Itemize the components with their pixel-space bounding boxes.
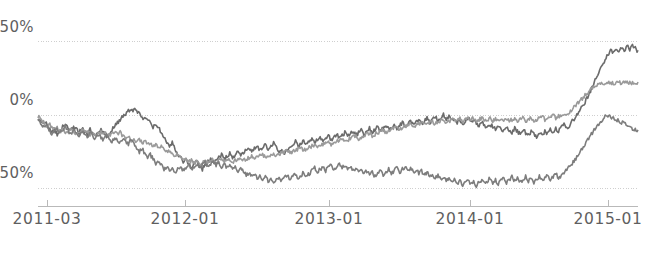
y-tick-label: 0% xyxy=(9,91,34,109)
x-tick-label: 2012-01 xyxy=(151,210,220,228)
line-chart: 50%0%-50% 2011-032012-012013-012014-0120… xyxy=(0,0,647,254)
y-tick-label: 50% xyxy=(0,18,34,36)
x-tick-label: 2011-03 xyxy=(13,210,82,228)
x-tick-label: 2015-01 xyxy=(574,210,643,228)
chart-container: 50%0%-50% 2011-032012-012013-012014-0120… xyxy=(0,0,647,254)
y-tick-label: -50% xyxy=(0,164,34,182)
x-tick-label: 2013-01 xyxy=(295,210,364,228)
x-tick-label: 2014-01 xyxy=(436,210,505,228)
